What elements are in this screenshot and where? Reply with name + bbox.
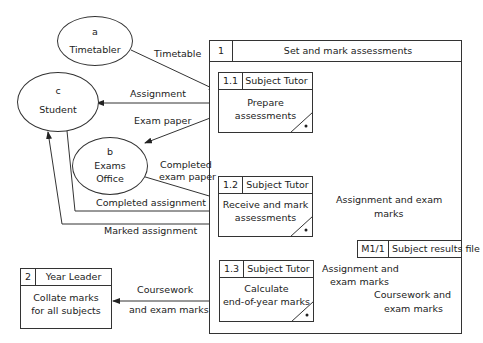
parent-process-header: 1 Set and mark assessments [210, 41, 461, 62]
entity-student[interactable]: c Student [17, 72, 99, 132]
flow-label-completed-assignment: Completed assignment [96, 197, 206, 209]
flow-label-assignment: Assignment [130, 88, 186, 100]
process-number: 2 [21, 269, 36, 285]
entity-timetabler[interactable]: a Timetabler [57, 16, 133, 66]
process-actor: Year Leader [36, 269, 111, 285]
process-header: 2 Year Leader [21, 269, 111, 286]
flow-label-marks-from-store-1: Assignment and [322, 263, 399, 275]
entity-name: Timetabler [58, 44, 132, 56]
corner-marker-icon [219, 260, 314, 322]
flow-label-completed-exam-paper-2: exam paper [159, 171, 216, 183]
entity-name-line2: Office [73, 173, 147, 185]
flow-label-coursework-to-leader-1: Coursework [137, 284, 193, 296]
entity-exams-office[interactable]: b Exams Office [72, 137, 148, 195]
flow-label-marks-to-store-1: Assignment and exam [336, 194, 442, 206]
entity-name: Student [18, 104, 98, 116]
process-name-line2: for all subjects [21, 305, 111, 317]
entity-id: c [18, 85, 98, 96]
data-store-name: Subject results file [392, 241, 480, 257]
flow-label-coursework-to-store-2: exam marks [384, 303, 443, 315]
data-store-id: M1/1 [358, 241, 389, 257]
parent-process-title: Set and mark assessments [235, 41, 461, 61]
flow-label-exam-paper: Exam paper [134, 115, 191, 127]
process-1-1[interactable]: 1.1 Subject Tutor Prepare assessments [218, 72, 313, 133]
corner-marker-icon [218, 72, 313, 133]
entity-name-line1: Exams [73, 160, 147, 172]
corner-marker-icon [218, 176, 313, 237]
process-1-3[interactable]: 1.3 Subject Tutor Calculate end-of-year … [219, 260, 314, 322]
process-1-2[interactable]: 1.2 Subject Tutor Receive and mark asses… [218, 176, 313, 237]
process-2-year-leader[interactable]: 2 Year Leader Collate marks for all subj… [20, 268, 112, 329]
entity-id: a [58, 26, 132, 37]
flow-label-marks-from-store-2: exam marks [330, 276, 389, 288]
flow-label-completed-exam-paper-1: Completed [160, 159, 212, 171]
flow-label-coursework-to-store-1: Coursework and [374, 289, 451, 301]
flow-label-coursework-to-leader-2: and exam marks [129, 304, 209, 316]
entity-id: b [73, 146, 147, 157]
flow-label-timetable: Timetable [154, 48, 201, 60]
data-store-subject-results[interactable]: M1/1 Subject results file [357, 240, 461, 258]
flow-label-marked-assignment: Marked assignment [104, 225, 197, 237]
process-name-line1: Collate marks [21, 292, 111, 304]
parent-process-number: 1 [210, 41, 233, 61]
flow-label-marks-to-store-2: marks [374, 208, 403, 220]
